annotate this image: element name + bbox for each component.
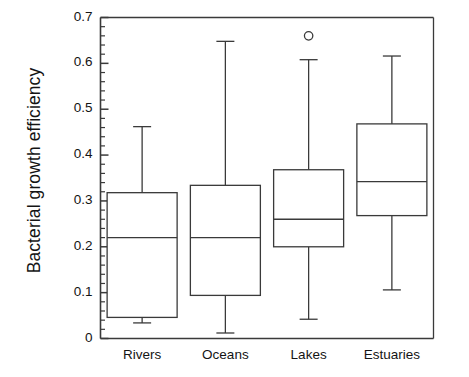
box-plot-group-lakes <box>274 32 344 320</box>
y-axis-tick-label: 0.3 <box>53 192 93 207</box>
box-plot-group-rivers <box>107 127 177 323</box>
box-iqr <box>190 185 260 295</box>
box-iqr <box>274 170 344 247</box>
box-plot-group-estuaries <box>357 56 427 290</box>
y-axis-tick-label: 0.4 <box>53 146 93 161</box>
outlier-marker <box>304 32 312 40</box>
x-axis-tick-label-estuaries: Estuaries <box>332 347 452 362</box>
box-plot-group-oceans <box>190 41 260 333</box>
box-iqr <box>357 124 427 216</box>
y-axis-tick-label: 0.7 <box>53 9 93 24</box>
box-iqr <box>107 193 177 318</box>
y-axis-tick-label: 0.2 <box>53 238 93 253</box>
y-axis-tick-label: 0.1 <box>53 284 93 299</box>
y-axis-title: Bacterial growth efficiency <box>24 16 45 326</box>
y-axis-tick-label: 0.6 <box>53 54 93 69</box>
box-plot-figure: Bacterial growth efficiency 00.10.20.30.… <box>0 0 469 377</box>
y-axis-tick-label: 0.5 <box>53 100 93 115</box>
y-axis-tick-label: 0 <box>53 330 93 345</box>
